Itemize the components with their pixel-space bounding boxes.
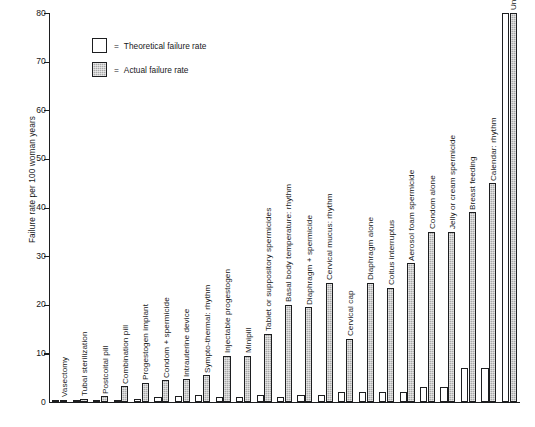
bar-actual [510,13,517,402]
bar-theoretical [318,395,325,402]
category-label: Sympto-thermal: rhythm [204,284,212,373]
category-label: Combination pill [122,325,130,384]
category-label: Tablet or suppository spermicides [265,208,273,331]
category-label: Tubal sterilization [81,332,89,397]
y-tick-label: 60 [16,105,46,115]
bar-group: Tablet or suppository spermicides [257,13,277,402]
bar-group: Unprotected coitus [502,13,522,402]
y-tick-label: 70 [16,56,46,66]
bar-actual [101,396,108,402]
bar-actual [469,212,476,402]
bar-theoretical [93,400,100,402]
bar-theoretical [379,392,386,402]
bar-theoretical [338,392,345,402]
y-tick-label: 20 [16,299,46,309]
y-tick-label: 50 [16,153,46,163]
bar-actual [448,232,455,402]
bar-theoretical [154,397,161,402]
bar-group: Condom + spermicide [154,13,174,402]
bar-actual [203,375,210,402]
bar-theoretical [461,368,468,402]
category-label: Diaphragm alone [367,217,375,280]
category-label: Diaphragm + spermicide [306,215,314,305]
bar-theoretical [440,387,447,402]
bar-group: Vasectomy [52,13,72,402]
bar-group: Diaphragm + spermicide [297,13,317,402]
bar-actual [489,183,496,402]
bar-actual [305,307,312,402]
bar-actual [60,400,67,402]
y-tick-label: 40 [16,202,46,212]
bar-actual [428,232,435,402]
bar-actual [162,380,169,402]
bar-theoretical [277,397,284,402]
bar-theoretical [216,397,223,402]
bar-group: Breast feeding [461,13,481,402]
bar-theoretical [257,395,264,402]
bar-actual [387,288,394,402]
category-label: Basal body temperature: rhythm [285,184,293,302]
bar-actual [407,263,414,402]
x-axis-line [49,402,520,403]
bar-group: Cervical cap [338,13,358,402]
category-label: Calendar: rhythm [490,117,498,181]
bar-actual [367,283,374,402]
bar-actual [244,356,251,402]
category-label: Aerosol foam spermicide [408,170,416,261]
bar-group: Progestogen implant [134,13,154,402]
bar-theoretical [359,392,366,402]
plot-area: VasectomyTubal sterilizationPostcoital p… [50,13,520,402]
bar-actual [223,356,230,402]
bar-theoretical [114,400,121,402]
y-tick-label: 10 [16,348,46,358]
bar-group: Calendar: rhythm [481,13,501,402]
bar-actual [80,399,87,402]
bar-theoretical [420,387,427,402]
bar-theoretical [297,395,304,402]
bar-actual [346,339,353,402]
category-label: Cervical mucus: rhythm [326,194,334,281]
bar-group: Cervical mucus: rhythm [318,13,338,402]
category-label: Minipill [245,328,253,354]
bar-group: Injectable progestogen [216,13,236,402]
category-label: Vasectomy [61,357,69,397]
category-label: Progestogen implant [142,304,150,380]
bar-theoretical [73,400,80,402]
bar-actual [326,283,333,402]
bar-group: Combination pill [114,13,134,402]
category-label: Postcoital pill [101,345,109,394]
bar-group: Tubal sterilization [73,13,93,402]
bar-theoretical [400,392,407,402]
bar-group: Jelly or cream spermicide [440,13,460,402]
bar-theoretical [481,368,488,402]
bar-theoretical [52,400,59,402]
bar-group: Coitus interruptus [379,13,399,402]
bar-actual [121,386,128,402]
bar-chart: Failure rate per 100 woman years 0102030… [0,0,535,427]
bar-theoretical [175,396,182,402]
bar-theoretical [195,395,202,402]
bar-actual [264,334,271,402]
category-label: Unprotected coitus [510,0,518,11]
bar-theoretical [236,397,243,402]
category-label: Breast feeding [469,156,477,210]
category-label: Condom + spermicide [163,297,171,378]
bar-group: Minipill [236,13,256,402]
y-tick-label: 30 [16,251,46,261]
bar-theoretical [502,13,509,402]
y-tick-label: 80 [16,8,46,18]
category-label: Intrauterine device [183,308,191,377]
category-label: Condom alone [428,175,436,229]
bar-actual [142,383,149,402]
y-tick-label: 0 [16,397,46,407]
bar-theoretical [134,399,141,402]
category-label: Coitus interruptus [388,220,396,285]
bar-group: Basal body temperature: rhythm [277,13,297,402]
bar-group: Condom alone [420,13,440,402]
bar-actual [183,379,190,402]
category-label: Jelly or cream spermicide [449,135,457,229]
category-label: Injectable progestogen [224,269,232,353]
bar-actual [285,305,292,402]
bar-group: Aerosol foam spermicide [400,13,420,402]
bar-group: Intrauterine device [175,13,195,402]
